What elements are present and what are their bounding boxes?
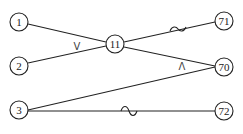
edge-1-11 — [28, 24, 106, 42]
node-label: 1 — [16, 16, 22, 28]
edge-11-70 — [124, 47, 215, 66]
node-label: 2 — [16, 60, 22, 72]
node-2[interactable]: 2 — [10, 57, 28, 75]
node-label: 72 — [219, 105, 230, 117]
node-3[interactable]: 3 — [10, 101, 28, 119]
node-11[interactable]: 11 — [106, 35, 124, 53]
and-mark-3-70: Λ — [179, 61, 186, 72]
node-label: 70 — [219, 61, 231, 73]
node-label: 3 — [16, 104, 22, 116]
node-1[interactable]: 1 — [10, 13, 28, 31]
node-70[interactable]: 70 — [215, 58, 233, 76]
node-label: 71 — [219, 15, 230, 27]
node-72[interactable]: 72 — [215, 102, 233, 120]
edge-2-11 — [28, 46, 106, 63]
or-mark-2-11: V — [74, 41, 81, 52]
diagram-canvas: V Λ 1 2 3 11 71 70 72 — [0, 0, 243, 134]
node-label: 11 — [110, 38, 121, 50]
edge-11-71 — [124, 22, 215, 42]
node-71[interactable]: 71 — [215, 12, 233, 30]
edge-3-70 — [28, 67, 215, 110]
edges — [28, 22, 215, 111]
